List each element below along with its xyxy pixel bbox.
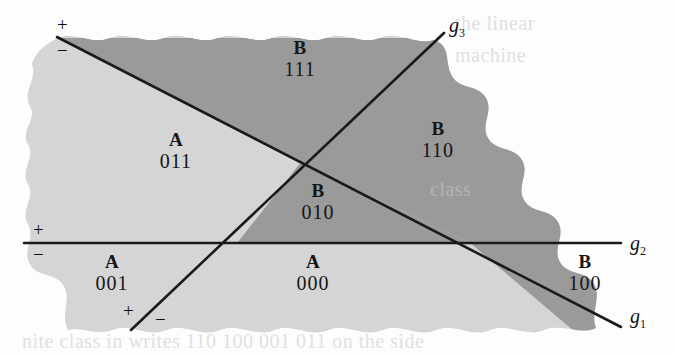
region-class-001: A bbox=[72, 252, 152, 273]
sign-g2-minus-left: − bbox=[33, 244, 44, 266]
bleed-text: class bbox=[430, 178, 471, 201]
region-class-111: B bbox=[260, 38, 340, 59]
region-label-100: B 100 bbox=[545, 252, 625, 294]
region-class-110: B bbox=[398, 119, 478, 140]
region-class-000: A bbox=[273, 252, 353, 273]
region-class-010: B bbox=[278, 181, 358, 202]
region-label-110: B 110 bbox=[398, 119, 478, 161]
region-code-000: 000 bbox=[273, 273, 353, 295]
region-label-010: B 010 bbox=[278, 181, 358, 223]
axis-label-g1: g1 bbox=[630, 305, 646, 332]
bleed-text: the linear bbox=[455, 12, 535, 35]
region-code-001: 001 bbox=[72, 273, 152, 295]
region-label-000: A 000 bbox=[273, 252, 353, 294]
axis-subscript-g2: 2 bbox=[640, 244, 646, 258]
axis-name-g2: g bbox=[630, 232, 640, 254]
axis-subscript-g3: 3 bbox=[459, 26, 465, 40]
axis-label-g2: g2 bbox=[630, 232, 646, 259]
axis-subscript-g1: 1 bbox=[640, 317, 646, 331]
region-code-111: 111 bbox=[260, 59, 340, 81]
axis-label-g3: g3 bbox=[449, 14, 465, 41]
region-label-001: A 001 bbox=[72, 252, 152, 294]
axis-name-g3: g bbox=[449, 14, 459, 36]
region-label-011: A 011 bbox=[136, 130, 216, 172]
sign-g3-minus-bot: − bbox=[155, 309, 166, 331]
linear-machine-decision-region-figure: the linear machine class nite class in w… bbox=[0, 0, 674, 355]
region-code-100: 100 bbox=[545, 273, 625, 295]
region-class-011: A bbox=[136, 130, 216, 151]
bleed-text: nite class in writes 110 100 001 011 on … bbox=[22, 330, 424, 353]
sign-g2-plus-left: + bbox=[33, 219, 44, 241]
sign-g1-minus-top: − bbox=[57, 40, 68, 62]
sign-g3-plus-bot: + bbox=[123, 300, 134, 322]
bleed-text: machine bbox=[455, 44, 526, 67]
region-label-111: B 111 bbox=[260, 38, 340, 80]
region-code-011: 011 bbox=[136, 151, 216, 173]
region-code-010: 010 bbox=[278, 202, 358, 224]
sign-g1-plus-top: + bbox=[57, 14, 68, 36]
axis-name-g1: g bbox=[630, 305, 640, 327]
region-code-110: 110 bbox=[398, 140, 478, 162]
region-class-100: B bbox=[545, 252, 625, 273]
